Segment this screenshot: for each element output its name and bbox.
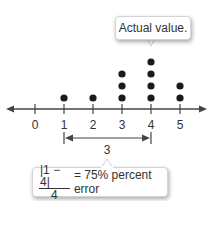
error-fraction: |1 − 4| 4 xyxy=(39,164,70,201)
pointer-mask xyxy=(101,166,113,169)
error-text: = 75% percent error xyxy=(74,168,167,196)
tick-label: 3 xyxy=(119,118,126,132)
span-left-arrow-icon xyxy=(65,135,73,142)
right-arrow-icon xyxy=(199,106,207,113)
percent-error-callout: |1 − 4| 4 = 75% percent error xyxy=(32,167,168,197)
fraction-numerator: |1 − 4| xyxy=(39,164,70,189)
tick-label: 5 xyxy=(177,118,184,132)
tick-label: 2 xyxy=(90,118,97,132)
left-arrow-icon xyxy=(6,106,14,113)
data-dots xyxy=(60,58,183,101)
tick-label: 4 xyxy=(148,118,155,132)
fraction-denominator: 4 xyxy=(51,189,58,201)
actual-value-text: Actual value. xyxy=(119,21,188,35)
tick-label: 1 xyxy=(61,118,68,132)
tick-label: 0 xyxy=(32,118,39,132)
pointer-mask xyxy=(146,36,157,39)
span-label: 3 xyxy=(104,143,111,157)
span-right-arrow-icon xyxy=(142,135,150,142)
